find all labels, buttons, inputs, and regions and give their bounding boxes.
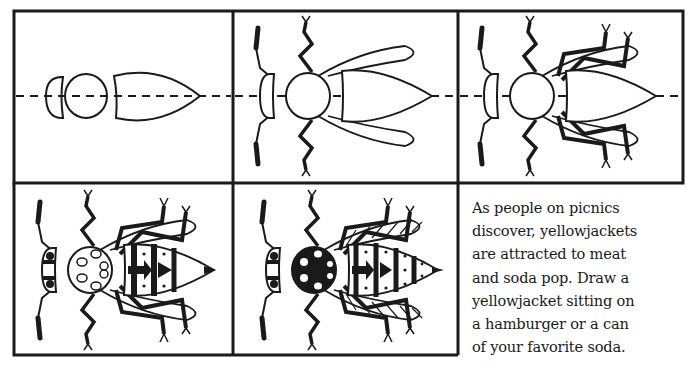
caption-line: yellowjacket sitting on <box>472 289 692 312</box>
instruction-caption: As people on picnics discover, yellowjac… <box>472 196 692 358</box>
caption-line: discover, yellowjackets <box>472 219 692 242</box>
panel-step-2 <box>235 16 456 176</box>
panel-step-1 <box>16 73 231 121</box>
caption-line: of your favorite soda. <box>472 335 692 358</box>
panel-step-4 <box>38 190 216 350</box>
caption-line: and soda pop. Draw a <box>472 266 692 289</box>
caption-line: As people on picnics <box>472 196 692 219</box>
caption-line: are attracted to meat <box>472 242 692 265</box>
panel-step-5 <box>262 190 444 350</box>
caption-line: a hamburger or a can <box>472 312 692 335</box>
panel-step-3 <box>460 16 681 176</box>
